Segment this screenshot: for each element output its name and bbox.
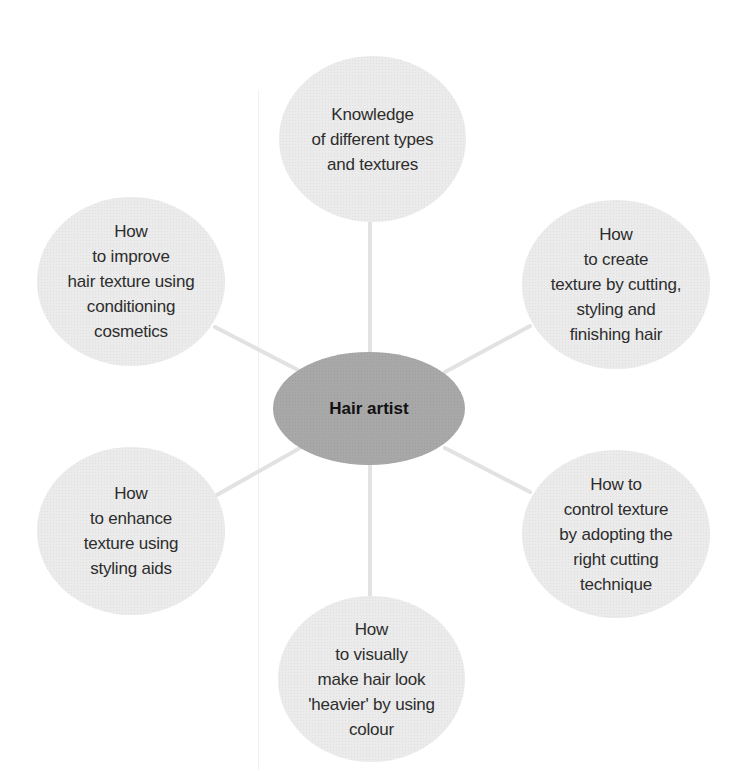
branch-label-top-right: How to create texture by cutting, stylin…: [551, 222, 681, 347]
branch-node-top-right: How to create texture by cutting, stylin…: [522, 200, 710, 369]
branch-node-bottom-left: How to enhance texture using styling aid…: [37, 447, 225, 615]
branch-label-top-left: How to improve hair texture using condit…: [68, 219, 195, 344]
branch-node-top-left: How to improve hair texture using condit…: [37, 197, 225, 366]
branch-label-bottom-right: How to control texture by adopting the r…: [559, 472, 672, 597]
center-label: Hair artist: [329, 399, 408, 419]
connector-top-right: [445, 326, 530, 372]
branch-node-top: Knowledge of different types and texture…: [279, 56, 466, 222]
branch-label-bottom-left: How to enhance texture using styling aid…: [84, 481, 179, 581]
branch-label-bottom: How to visually make hair look 'heavier'…: [308, 617, 435, 742]
branch-node-bottom-right: How to control texture by adopting the r…: [522, 450, 710, 618]
branch-label-top: Knowledge of different types and texture…: [312, 102, 434, 177]
connector-top-left: [215, 327, 298, 370]
connector-bottom-left: [215, 448, 300, 496]
branch-node-bottom: How to visually make hair look 'heavier'…: [278, 596, 465, 762]
connector-bottom-right: [445, 448, 530, 492]
center-node: Hair artist: [273, 352, 465, 465]
